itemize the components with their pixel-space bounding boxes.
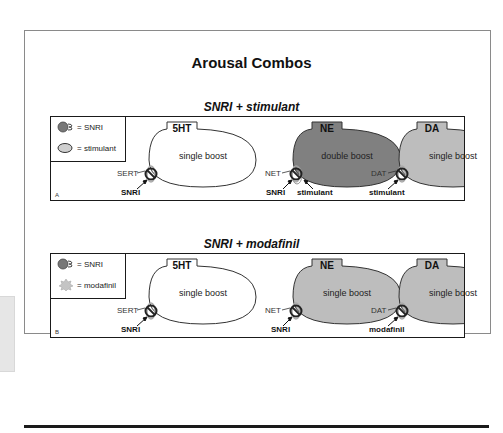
drug-label: SNRI — [266, 188, 285, 197]
nt-label-5ht: 5HT — [169, 123, 195, 134]
drug-label: stimulant — [297, 188, 333, 197]
legend-item-modafinil: = modafinil — [57, 278, 116, 292]
boost-label-da: single boost — [413, 288, 493, 298]
legend-item-stimulant: = stimulant — [57, 141, 116, 155]
drug-label: SNRI — [121, 188, 140, 197]
nt-label-da: DA — [419, 260, 445, 271]
panel-letter: B — [55, 329, 59, 335]
net-blocked-icon — [291, 166, 303, 184]
drug-label: modafinil — [369, 325, 405, 334]
figure-title: Arousal Combos — [0, 54, 503, 71]
panel-b: = SNRI = modafinil 5HT NE DA single boos… — [50, 253, 465, 338]
drug-label: stimulant — [369, 188, 405, 197]
nt-label-5ht: 5HT — [169, 260, 195, 271]
drug-label: SNRI — [121, 325, 140, 334]
legend-item-snri: = SNRI — [57, 257, 103, 271]
transporter-label-net: NET — [265, 306, 281, 315]
transporter-label-sert: SERT — [117, 169, 138, 178]
snri-transporter-blocker-icon — [57, 258, 75, 270]
bottom-rule — [24, 425, 489, 428]
stimulant-oval-icon — [57, 142, 75, 154]
transporter-label-sert: SERT — [117, 306, 138, 315]
panel-b-subtitle: SNRI + modafinil — [0, 237, 503, 251]
transporter-label-dat: DAT — [371, 169, 386, 178]
nt-label-ne: NE — [314, 260, 340, 271]
nt-label-ne: NE — [314, 123, 340, 134]
snri-transporter-blocker-icon — [57, 121, 75, 133]
panel-a-subtitle: SNRI + stimulant — [0, 100, 503, 114]
drug-label: SNRI — [271, 325, 290, 334]
side-tab[interactable] — [0, 296, 15, 372]
panel-a: = SNRI = stimulant 5HT NE DA single boos… — [50, 116, 465, 201]
boost-label-da: single boost — [413, 151, 493, 161]
nt-label-da: DA — [419, 123, 445, 134]
modafinil-star-icon — [57, 278, 75, 292]
panel-a-legend: = SNRI = stimulant — [51, 117, 126, 162]
boost-label-5ht: single boost — [163, 151, 243, 161]
transporter-label-net: NET — [265, 169, 281, 178]
boost-label-5ht: single boost — [163, 288, 243, 298]
panel-b-legend: = SNRI = modafinil — [51, 254, 126, 299]
panel-letter: A — [55, 192, 59, 198]
boost-label-ne: single boost — [307, 288, 387, 298]
transporter-label-dat: DAT — [371, 306, 386, 315]
boost-label-ne: double boost — [307, 151, 387, 161]
legend-item-snri: = SNRI — [57, 120, 103, 134]
